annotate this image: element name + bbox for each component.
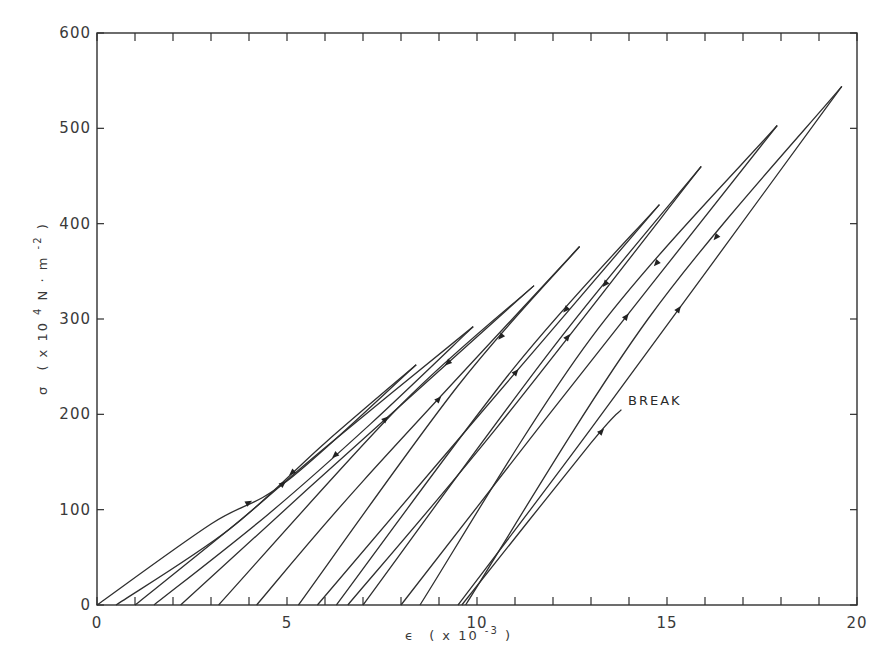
arrow-icon — [563, 334, 570, 341]
x-tick-label: 20 — [846, 614, 867, 632]
loading-curve — [458, 86, 842, 605]
unloading-curve — [219, 286, 534, 605]
x-tick-label: 0 — [92, 614, 103, 632]
loading-curve — [401, 125, 777, 605]
y-tick-label: 400 — [59, 215, 91, 233]
loading-curve — [462, 410, 622, 605]
break-annotation: BREAK — [628, 393, 682, 408]
x-tick-label: 5 — [282, 614, 293, 632]
y-tick-label: 200 — [59, 405, 91, 423]
y-tick-label: 100 — [59, 501, 91, 519]
stress-strain-chart: 051015200100200300400500600 ϵ ( x 10 -3 … — [0, 0, 889, 671]
y-tick-label: 0 — [80, 596, 91, 614]
unloading-curve — [154, 327, 473, 605]
unloading-curve — [420, 125, 777, 605]
hysteresis-curves — [97, 86, 842, 605]
unloading-curve — [116, 365, 416, 605]
loading-curve — [135, 327, 473, 605]
x-tick-label: 15 — [656, 614, 677, 632]
unloading-curve — [298, 247, 579, 605]
plot-frame — [97, 33, 857, 605]
direction-arrows — [244, 233, 720, 507]
axes-box — [97, 33, 857, 605]
axis-tick-labels: 051015200100200300400500600 — [59, 24, 867, 632]
x-axis-label: ϵ ( x 10 -3 ) — [405, 622, 512, 643]
arrow-icon — [674, 306, 681, 313]
y-tick-label: 300 — [59, 310, 91, 328]
axis-ticks — [97, 33, 857, 605]
unloading-curve — [336, 205, 659, 605]
y-tick-label: 600 — [59, 24, 91, 42]
arrow-icon — [332, 451, 339, 458]
loading-curve — [97, 365, 416, 605]
y-tick-label: 500 — [59, 119, 91, 137]
y-axis-label: σ ( x 10 4 N · m -2 ) — [29, 222, 50, 395]
